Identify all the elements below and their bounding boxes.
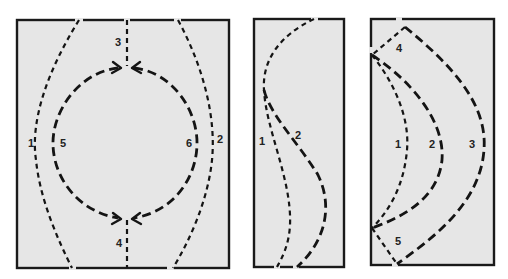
panel-3-label-1: 1 bbox=[395, 138, 401, 150]
panel-1: 1 2 3 4 5 6 bbox=[17, 20, 229, 268]
panel-1-label-1: 1 bbox=[28, 137, 34, 149]
panel-1-label-4: 4 bbox=[116, 237, 123, 249]
diagram-canvas: 1 2 3 4 5 6 1 2 1 2 3 bbox=[0, 0, 508, 279]
panel-3-label-5: 5 bbox=[395, 235, 401, 247]
panel-2-label-1: 1 bbox=[259, 135, 265, 147]
panel-3-label-4: 4 bbox=[396, 42, 403, 54]
panel-3-label-2: 2 bbox=[429, 138, 435, 150]
panel-1-frame bbox=[17, 20, 229, 268]
panel-3: 1 2 3 4 5 bbox=[371, 19, 494, 265]
panel-2: 1 2 bbox=[254, 19, 344, 267]
panel-3-label-3: 3 bbox=[469, 138, 475, 150]
panel-1-label-2: 2 bbox=[217, 133, 223, 145]
panel-1-label-3: 3 bbox=[115, 36, 121, 48]
panel-2-frame bbox=[254, 19, 344, 267]
panel-1-label-6: 6 bbox=[186, 137, 192, 149]
panel-2-label-2: 2 bbox=[295, 129, 301, 141]
panel-1-label-5: 5 bbox=[60, 137, 66, 149]
